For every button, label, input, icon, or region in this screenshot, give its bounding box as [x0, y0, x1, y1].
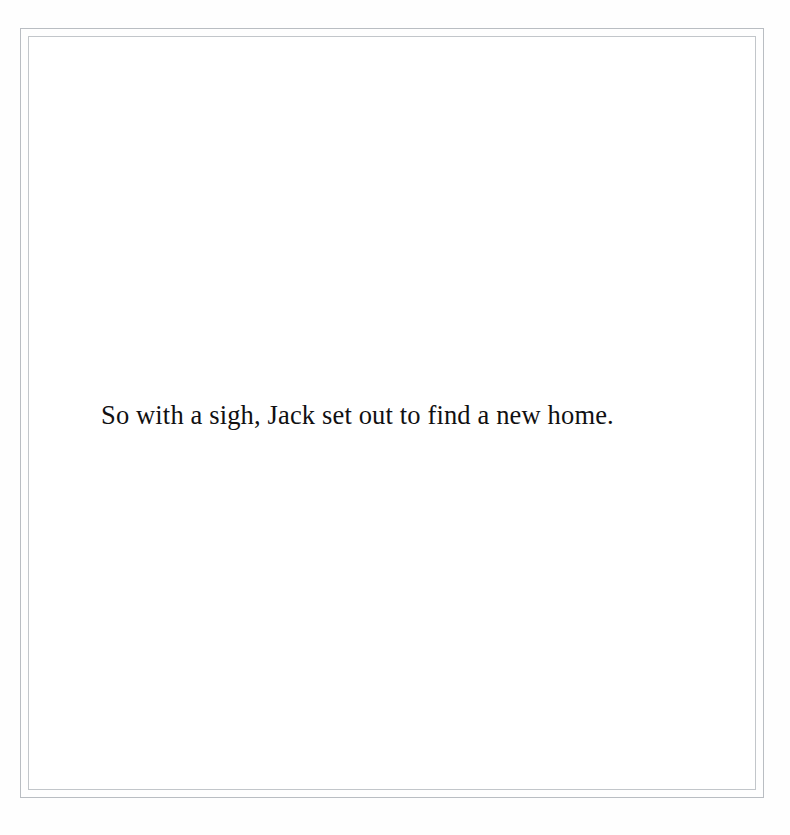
- page-sheet: So with a sigh, Jack set out to find a n…: [0, 0, 790, 835]
- story-body-text: So with a sigh, Jack set out to find a n…: [101, 399, 701, 432]
- page-border-outer-rule: So with a sigh, Jack set out to find a n…: [20, 28, 764, 798]
- page-border-inner-rule: So with a sigh, Jack set out to find a n…: [28, 36, 756, 790]
- page-text-block: So with a sigh, Jack set out to find a n…: [29, 37, 755, 789]
